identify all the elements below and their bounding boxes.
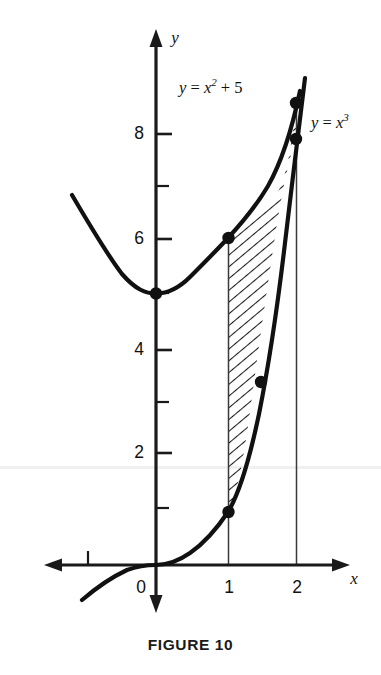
- point-1p5-3p375: [255, 376, 267, 388]
- shaded-region-hatch: [228, 103, 296, 513]
- y-axis-up-arrow-icon: [150, 29, 163, 47]
- parabola-eq-tail: + 5: [217, 78, 243, 97]
- point-1-6: [222, 232, 234, 244]
- figure-container: 8 6 4 2 1 2 0 y x y = x2 + 5 y = x3 FIGU…: [0, 0, 381, 675]
- x-axis-right-arrow-icon: [332, 559, 350, 572]
- point-2-9: [290, 97, 302, 109]
- point-2-8: [290, 133, 302, 145]
- y-tick-label-4: 4: [134, 339, 144, 359]
- cubic-eq-exponent: 3: [342, 111, 349, 123]
- figure-caption: FIGURE 10: [0, 636, 381, 654]
- cubic-eq-sign: =: [318, 113, 336, 132]
- x-axis-left-arrow-icon: [44, 559, 62, 572]
- y-tick-label-2: 2: [134, 442, 144, 462]
- point-1-1: [222, 506, 234, 518]
- y-tick-label-8: 8: [134, 123, 144, 143]
- cubic-equation-label: y = x3: [309, 111, 349, 132]
- curve-cubic: [82, 78, 305, 600]
- y-tick-label-6: 6: [134, 228, 144, 248]
- shaded-region-group: [228, 103, 296, 513]
- x-axis-label: x: [349, 569, 358, 588]
- parabola-equation-label: y = x2 + 5: [177, 76, 243, 97]
- y-axis-down-arrow-icon: [150, 595, 163, 613]
- y-axis-label: y: [169, 28, 179, 47]
- plot-canvas: 8 6 4 2 1 2 0 y x y = x2 + 5 y = x3: [0, 0, 381, 675]
- origin-label: 0: [136, 577, 146, 597]
- x-tick-label-1: 1: [224, 577, 234, 597]
- parabola-eq-sign: =: [186, 78, 204, 97]
- point-0-5: [150, 287, 162, 299]
- x-tick-label-2: 2: [292, 577, 302, 597]
